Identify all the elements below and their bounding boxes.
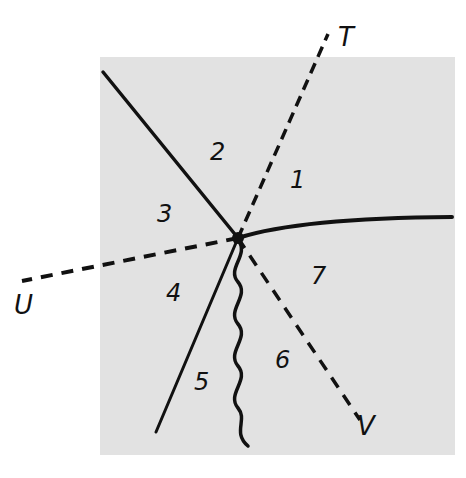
region-6: 6 bbox=[275, 346, 290, 374]
region-5: 5 bbox=[194, 368, 209, 396]
region-4: 4 bbox=[166, 279, 181, 307]
region-1: 1 bbox=[290, 166, 305, 194]
label-v: V bbox=[357, 411, 377, 441]
label-t: T bbox=[338, 22, 356, 52]
diagram-canvas: T U V 1 2 3 4 5 6 7 bbox=[0, 0, 466, 478]
region-7: 7 bbox=[311, 262, 327, 290]
region-2: 2 bbox=[210, 138, 225, 166]
label-u: U bbox=[14, 290, 33, 320]
center-point bbox=[232, 232, 244, 244]
region-3: 3 bbox=[157, 200, 172, 228]
